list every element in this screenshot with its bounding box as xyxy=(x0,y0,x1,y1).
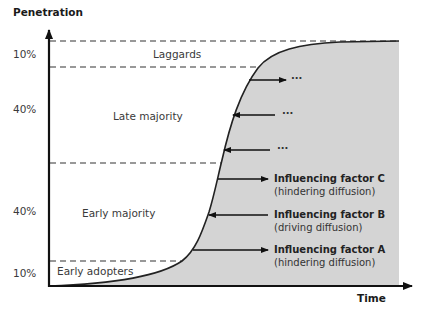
more-factor-dots-2: ... xyxy=(282,106,293,116)
y-axis-title: Penetration xyxy=(13,7,83,18)
segment-early-adopters: Early adopters xyxy=(57,266,133,277)
factor-a-name: Influencing factor A xyxy=(274,243,385,256)
segment-early-majority: Early majority xyxy=(82,208,155,219)
more-factor-dots-1: ... xyxy=(291,71,302,81)
factor-c-label: Influencing factor C (hindering diffusio… xyxy=(274,172,385,198)
factor-b-effect: (driving diffusion) xyxy=(274,221,385,234)
y-label-laggards: 10% xyxy=(13,49,36,60)
factor-b-label: Influencing factor B (driving diffusion) xyxy=(274,208,385,234)
factor-a-label: Influencing factor A (hindering diffusio… xyxy=(274,243,385,269)
segment-late-majority: Late majority xyxy=(113,111,183,122)
y-label-early-majority: 40% xyxy=(13,206,36,217)
segment-laggards: Laggards xyxy=(153,49,201,60)
y-label-early-adopters: 10% xyxy=(13,268,36,279)
factor-c-effect: (hindering diffusion) xyxy=(274,185,385,198)
factor-b-name: Influencing factor B xyxy=(274,208,385,221)
factor-c-name: Influencing factor C xyxy=(274,172,385,185)
y-label-late-majority: 40% xyxy=(13,104,36,115)
x-axis-title: Time xyxy=(357,293,386,304)
factor-a-effect: (hindering diffusion) xyxy=(274,256,385,269)
more-factor-dots-3: ... xyxy=(277,141,288,151)
